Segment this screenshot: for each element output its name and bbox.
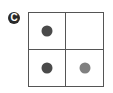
- two-by-two-grid: [28, 12, 104, 87]
- grid-cell-bottom-left: [29, 50, 66, 87]
- grid-cell-top-right: [66, 13, 103, 50]
- dot-top-left: [42, 25, 53, 36]
- grid-cell-top-left: [29, 13, 66, 50]
- dot-bottom-left: [42, 62, 53, 73]
- grid-cell-bottom-right: [66, 50, 103, 87]
- dot-bottom-right: [79, 62, 90, 73]
- panel-label-c: C: [8, 12, 20, 24]
